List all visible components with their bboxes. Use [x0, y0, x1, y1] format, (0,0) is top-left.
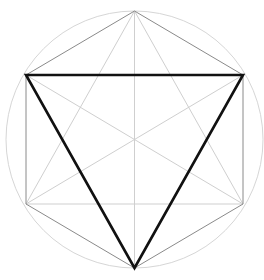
hexagon-diagonals: [26, 11, 243, 268]
hexagon-triangle-diagram: [0, 0, 264, 280]
hexagon-short-diagonal: [135, 11, 244, 204]
hexagon-short-diagonal: [26, 11, 135, 204]
